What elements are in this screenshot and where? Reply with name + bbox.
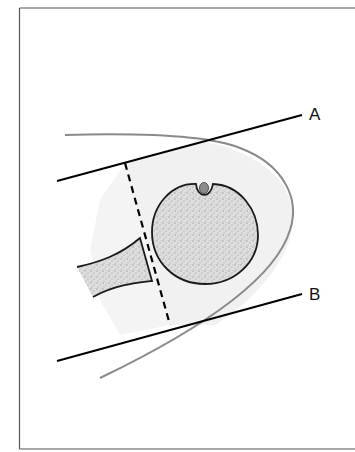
nerve-dot [200,183,209,194]
anatomical-diagram: A B [0,0,355,452]
label-b: B [309,285,320,304]
round-bone-cross-section [152,184,258,284]
label-a: A [309,105,321,124]
